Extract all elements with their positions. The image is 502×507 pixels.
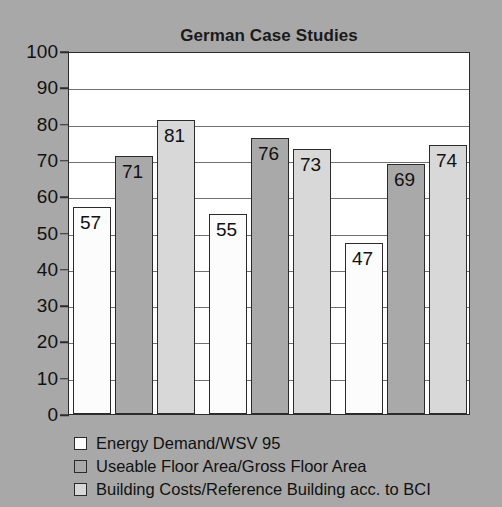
legend-item[interactable]: Building Costs/Reference Building acc. t… [74, 478, 494, 500]
bar: 47 [345, 243, 383, 414]
y-axis-tick-label: 40 [10, 259, 58, 281]
legend-item-label: Building Costs/Reference Building acc. t… [96, 480, 431, 499]
bar-value-label: 81 [164, 126, 185, 145]
legend-swatch [74, 460, 87, 473]
y-axis-tick-label: 30 [10, 295, 58, 317]
bar-value-label: 69 [394, 170, 415, 189]
bar-value-label: 74 [436, 151, 457, 170]
bar-value-label: 73 [300, 155, 321, 174]
legend-swatch [74, 437, 87, 450]
y-axis-tick-label: 100 [10, 41, 58, 63]
legend-item-label: Useable Floor Area/Gross Floor Area [96, 457, 367, 476]
bar-value-label: 57 [80, 213, 101, 232]
gridline [69, 126, 469, 127]
y-axis-tick-label: 20 [10, 331, 58, 353]
y-axis-tick-label: 80 [10, 114, 58, 136]
bar: 73 [293, 149, 331, 414]
bar: 71 [115, 156, 153, 414]
bar: 74 [429, 145, 467, 414]
bar-value-label: 55 [216, 220, 237, 239]
bar-value-label: 71 [122, 162, 143, 181]
gridline [69, 89, 469, 90]
legend-item[interactable]: Energy Demand/WSV 95 [74, 432, 494, 454]
y-axis-tick-label: 60 [10, 186, 58, 208]
bar: 55 [209, 214, 247, 414]
chart-title: German Case Studies [68, 26, 470, 46]
legend-item-label: Energy Demand/WSV 95 [96, 434, 280, 453]
bar-value-label: 47 [352, 249, 373, 268]
plot-area: 577181557673476974 [68, 52, 470, 415]
y-axis-tick-label: 10 [10, 368, 58, 390]
y-axis-tick-label: 90 [10, 77, 58, 99]
y-axis-tick-label: 0 [10, 404, 58, 426]
chart-legend: Energy Demand/WSV 95Useable Floor Area/G… [74, 432, 494, 501]
legend-item[interactable]: Useable Floor Area/Gross Floor Area [74, 455, 494, 477]
bar-value-label: 76 [258, 144, 279, 163]
legend-swatch [74, 483, 87, 496]
bar: 76 [251, 138, 289, 414]
y-axis-tick-label: 50 [10, 223, 58, 245]
bar: 69 [387, 164, 425, 414]
bar: 57 [73, 207, 111, 414]
bar: 81 [157, 120, 195, 414]
y-axis-tick-label: 70 [10, 150, 58, 172]
